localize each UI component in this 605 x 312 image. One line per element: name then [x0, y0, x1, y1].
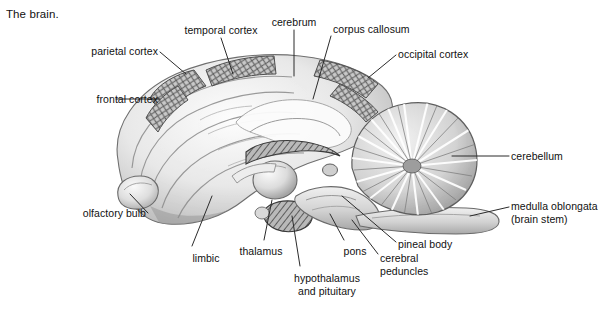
label-olfactory-bulb: olfactory bulb [52, 207, 146, 220]
figure-title: The brain. [6, 8, 59, 20]
label-thalamus: thalamus [232, 245, 290, 258]
olfactory-bulb-shape [118, 176, 159, 209]
leader-parietal-cortex [160, 52, 186, 74]
label-hypothalamus-pituitary: hypothalamus and pituitary [282, 272, 372, 297]
label-medulla-oblongata: medulla oblongata (brain stem) [511, 200, 603, 225]
label-cerebellum: cerebellum [511, 150, 589, 163]
label-pons: pons [338, 245, 372, 258]
label-corpus-callosum: corpus callosum [333, 23, 437, 36]
leader-occipital-cortex [368, 55, 396, 78]
label-cerebrum: cerebrum [262, 16, 326, 29]
label-limbic: limbic [184, 252, 228, 265]
label-occipital-cortex: occipital cortex [398, 48, 500, 61]
label-frontal-cortex: frontal cortex [62, 93, 158, 106]
label-parietal-cortex: parietal cortex [30, 45, 158, 58]
label-cerebral-peduncles: cerebral peduncles [380, 252, 454, 277]
pituitary-shape [255, 207, 269, 219]
label-pineal-body: pineal body [398, 238, 470, 251]
label-temporal-cortex: temporal cortex [168, 24, 274, 37]
pineal-body-shape [323, 164, 338, 176]
